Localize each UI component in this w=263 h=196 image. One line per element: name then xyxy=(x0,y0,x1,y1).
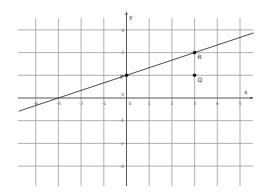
coordinate-plane: -4-3-2-101234532-1-2-30 PRQ x y xyxy=(0,0,263,196)
y-tick-label: 3 xyxy=(121,28,124,33)
point-label-p: P xyxy=(120,73,124,80)
y-tick-label: 2 xyxy=(121,50,124,55)
x-tick-label: 1 xyxy=(148,101,151,106)
x-tick-label: 4 xyxy=(216,101,219,106)
x-tick-label: 3 xyxy=(193,101,196,106)
y-axis-label: y xyxy=(129,13,133,21)
origin-label: 0 xyxy=(121,92,124,97)
line-pr xyxy=(19,33,254,111)
x-tick-label: -1 xyxy=(102,101,107,106)
axes xyxy=(18,12,253,186)
x-tick-label: -2 xyxy=(79,101,84,106)
line-series xyxy=(19,33,254,111)
y-tick-label: -1 xyxy=(120,118,125,123)
point-label-q: Q xyxy=(198,76,203,83)
x-tick-label: -3 xyxy=(56,101,61,106)
points: PRQ xyxy=(120,51,203,83)
x-tick-label: 0 xyxy=(129,101,132,106)
point-label-r: R xyxy=(198,53,202,60)
x-tick-label: 5 xyxy=(239,101,242,106)
x-axis-arrow-icon xyxy=(250,97,253,100)
point-r xyxy=(193,51,197,55)
y-tick-label: -3 xyxy=(120,164,125,169)
x-axis-label: x xyxy=(244,88,248,95)
point-q xyxy=(193,74,197,78)
y-tick-label: -2 xyxy=(120,141,125,146)
y-axis-arrow-icon xyxy=(125,12,128,15)
point-p xyxy=(125,74,129,78)
x-tick-label: 2 xyxy=(170,101,173,106)
